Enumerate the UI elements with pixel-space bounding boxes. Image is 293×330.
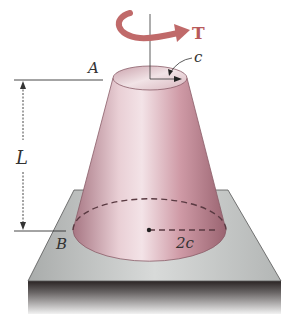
label-T: T bbox=[192, 23, 205, 43]
torque-arrow: T bbox=[119, 13, 205, 43]
plate-side bbox=[28, 281, 281, 314]
label-A: A bbox=[86, 59, 99, 77]
dim-arrowhead-down-icon bbox=[20, 222, 26, 230]
dim-arrowhead-up-icon bbox=[20, 81, 26, 89]
label-L: L bbox=[15, 147, 28, 168]
cone bbox=[73, 66, 226, 261]
torque-arrowhead-icon bbox=[174, 24, 190, 42]
base-center-dot bbox=[147, 228, 151, 232]
cone-body bbox=[73, 78, 226, 261]
label-c: c bbox=[194, 48, 203, 66]
cone-torsion-diagram: c T L A B 2c bbox=[0, 0, 293, 330]
torque-curve-icon bbox=[119, 13, 178, 38]
label-B: B bbox=[55, 235, 67, 253]
label-2c: 2c bbox=[175, 234, 195, 252]
